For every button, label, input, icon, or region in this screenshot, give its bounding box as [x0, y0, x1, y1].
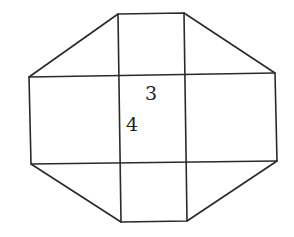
octagon-diagram: 3 4: [0, 0, 294, 237]
outer-octagon: [29, 13, 277, 222]
bottom-horizontal-line: [31, 161, 277, 164]
right-vertical-line: [184, 13, 187, 221]
top-horizontal-line: [29, 73, 275, 77]
label-width: 3: [145, 82, 157, 104]
left-vertical-line: [118, 14, 121, 222]
label-height: 4: [126, 113, 138, 135]
